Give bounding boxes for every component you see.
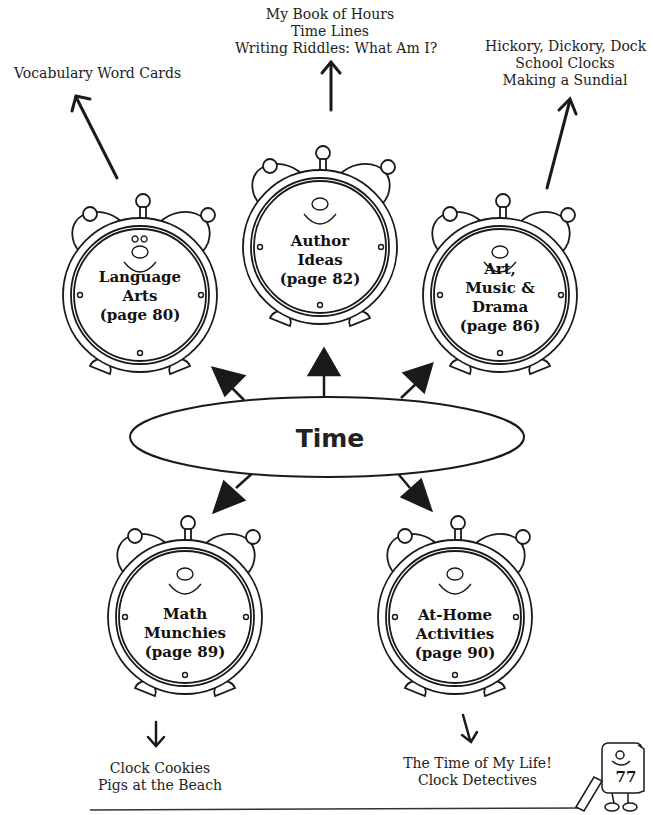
activities-language-arts: Vocabulary Word Cards — [14, 65, 181, 82]
clock-node-math-munchies: Math Munchies (page 89) — [105, 510, 265, 705]
clock-label: Author Ideas (page 82) — [260, 232, 380, 289]
activities-author-ideas: My Book of Hours Time Lines Writing Ridd… — [235, 6, 425, 57]
clock-label: At-Home Activities (page 90) — [395, 606, 515, 663]
clock-node-art-music-drama: Art, Music & Drama (page 86) — [420, 188, 580, 383]
activities-art-music-drama: Hickory, Dickory, Dock School Clocks Mak… — [485, 38, 645, 89]
clock-node-author-ideas: Author Ideas (page 82) — [240, 140, 400, 335]
page-number: 77 — [606, 768, 646, 786]
activities-at-home: The Time of My Life! Clock Detectives — [400, 755, 555, 789]
clock-label: Math Munchies (page 89) — [125, 605, 245, 662]
clock-label: Art, Music & Drama (page 86) — [440, 260, 560, 336]
activities-math-munchies: Clock Cookies Pigs at the Beach — [85, 760, 235, 794]
arrow-to-vocabulary — [76, 97, 117, 178]
arrow-to-art-activities — [547, 100, 570, 188]
clock-node-language-arts: Language Arts (page 80) — [60, 188, 220, 383]
clock-label: Language Arts (page 80) — [80, 268, 200, 325]
center-topic-time: Time — [130, 398, 530, 478]
clock-node-at-home-activities: At-Home Activities (page 90) — [375, 510, 535, 705]
